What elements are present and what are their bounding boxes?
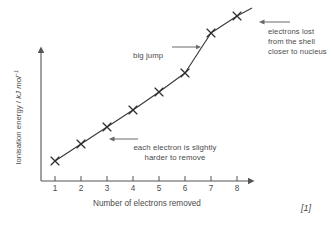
x-axis-title: Number of electrons removed — [41, 199, 253, 208]
annotation-harder-to-remove-line-2: harder to remove — [112, 153, 238, 163]
x-tick-label-2: 2 — [74, 184, 88, 193]
data-line-extension — [237, 8, 252, 16]
data-point-3 — [103, 123, 111, 131]
annotation-harder-to-remove-line-1: each electron is slightly — [112, 143, 238, 153]
x-tick-label-8: 8 — [230, 184, 244, 193]
x-tick-label-5: 5 — [152, 184, 166, 193]
y-axis-title-quantity: Ionisation energy / — [14, 99, 23, 165]
y-axis-title-exponent: −1 — [13, 70, 19, 76]
annotation-harder-to-remove: each electron is slightly harder to remo… — [112, 143, 238, 163]
data-point-4 — [129, 106, 137, 114]
data-point-1 — [51, 157, 59, 165]
annotation-electrons-lost: electrons lost from the shell closer to … — [268, 27, 331, 57]
annotation-electrons-lost-line-1: electrons lost — [268, 27, 331, 37]
x-tick-label-7: 7 — [204, 184, 218, 193]
data-point-2 — [77, 140, 85, 148]
data-point-6 — [181, 69, 189, 77]
x-tick-label-6: 6 — [178, 184, 192, 193]
annotation-electrons-lost-line-2: from the shell — [268, 37, 331, 47]
y-axis-title: Ionisation energy / kJ mol−1 — [13, 51, 24, 183]
y-axis-title-unit: kJ mol — [14, 76, 23, 99]
data-point-7 — [207, 29, 215, 37]
data-point-5 — [155, 88, 163, 96]
x-tick-label-1: 1 — [48, 184, 62, 193]
reference-mark: [1] — [301, 203, 311, 213]
x-axis-ticks — [55, 176, 237, 181]
data-line — [55, 16, 237, 161]
annotation-big-jump: big jump — [133, 51, 163, 61]
x-tick-label-3: 3 — [100, 184, 114, 193]
x-tick-label-4: 4 — [126, 184, 140, 193]
annotation-electrons-lost-line-3: closer to nucleus — [268, 47, 331, 57]
ionisation-energy-chart: Ionisation energy / kJ mol−1 Number of e… — [0, 0, 331, 225]
